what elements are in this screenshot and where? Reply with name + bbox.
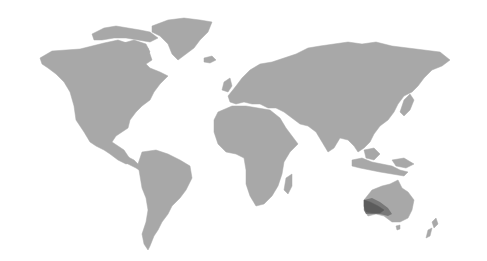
region-tasmania[interactable]: [396, 225, 400, 230]
region-south-america[interactable]: [138, 150, 192, 250]
region-iceland[interactable]: [204, 56, 216, 63]
region-arctic-islands[interactable]: [92, 26, 158, 42]
region-uk[interactable]: [222, 78, 232, 92]
region-greenland[interactable]: [152, 18, 212, 60]
region-new-zealand[interactable]: [426, 218, 438, 238]
world-map: [0, 0, 487, 261]
region-borneo[interactable]: [364, 148, 380, 160]
region-madagascar[interactable]: [284, 174, 292, 194]
region-new-guinea[interactable]: [392, 158, 414, 168]
region-north-america[interactable]: [40, 40, 168, 164]
